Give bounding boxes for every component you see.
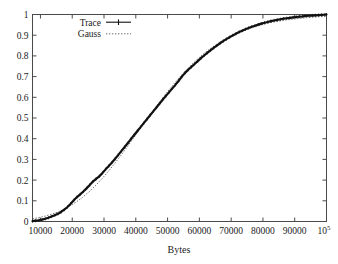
y-tick-label: 0.3 bbox=[17, 155, 29, 165]
cdf-plot: 00.10.20.30.40.50.60.70.80.91 1000020000… bbox=[0, 0, 338, 264]
x-axis-tick-labels: 1000020000300004000050000600007000080000… bbox=[29, 224, 332, 236]
axis-tick-marks bbox=[33, 15, 327, 222]
x-tick-label: 30000 bbox=[92, 226, 116, 236]
y-tick-label: 0.1 bbox=[17, 196, 29, 206]
x-tick-label: 80000 bbox=[251, 226, 275, 236]
y-tick-label: 0.9 bbox=[17, 31, 29, 41]
y-tick-label: 0.2 bbox=[17, 176, 29, 186]
x-tick-label: 20000 bbox=[60, 226, 84, 236]
y-tick-label: 0.8 bbox=[17, 51, 29, 61]
x-tick-label: 50000 bbox=[156, 226, 180, 236]
x-tick-label: 105 bbox=[318, 224, 332, 236]
x-axis-title: Bytes bbox=[168, 244, 191, 255]
series-line-gauss bbox=[33, 16, 327, 218]
y-axis-tick-labels: 00.10.20.30.40.50.60.70.80.91 bbox=[17, 10, 29, 227]
y-tick-label: 0.5 bbox=[17, 113, 29, 123]
legend-label-gauss: Gauss bbox=[78, 29, 102, 39]
x-tick-label: 40000 bbox=[124, 226, 148, 236]
series-markers-trace bbox=[33, 13, 327, 223]
y-tick-label: 0.7 bbox=[17, 72, 29, 82]
y-tick-label: 1 bbox=[24, 10, 29, 20]
series-line-trace bbox=[33, 15, 327, 222]
x-tick-label: 70000 bbox=[219, 226, 243, 236]
chart-figure: 00.10.20.30.40.50.60.70.80.91 1000020000… bbox=[0, 0, 338, 264]
y-tick-label: 0.6 bbox=[17, 93, 29, 103]
y-tick-label: 0.4 bbox=[17, 134, 29, 144]
x-tick-label: 10000 bbox=[29, 226, 53, 236]
x-tick-label: 90000 bbox=[283, 226, 307, 236]
plot-frame bbox=[33, 15, 327, 222]
data-series-group bbox=[33, 13, 327, 223]
chart-legend: Trace Gauss bbox=[78, 18, 131, 40]
x-tick-label: 60000 bbox=[187, 226, 211, 236]
legend-label-trace: Trace bbox=[80, 18, 101, 28]
